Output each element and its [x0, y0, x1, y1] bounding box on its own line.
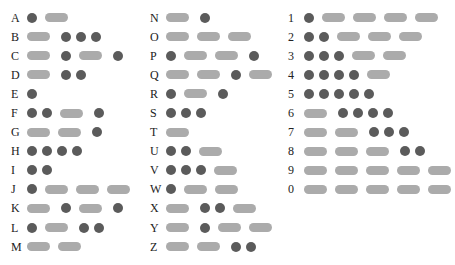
morse-row: 8 — [288, 142, 455, 161]
dash-icon — [304, 109, 327, 118]
morse-row: 0 — [288, 180, 455, 199]
character-label: K — [11, 202, 27, 214]
morse-row: J — [11, 180, 138, 199]
dot-icon — [166, 184, 176, 194]
dot-icon — [200, 223, 210, 233]
character-label: P — [150, 50, 166, 62]
dash-icon — [58, 128, 81, 137]
dash-icon — [337, 32, 360, 41]
morse-row: N — [150, 8, 280, 27]
morse-row: H — [11, 142, 138, 161]
dash-icon — [184, 185, 207, 194]
dot-icon — [181, 146, 191, 156]
dot-icon — [113, 203, 123, 213]
dash-icon — [335, 147, 358, 156]
dot-icon — [215, 203, 225, 213]
dot-icon — [319, 51, 329, 61]
dash-icon — [76, 185, 99, 194]
dot-icon — [369, 127, 379, 137]
morse-symbols — [27, 51, 128, 61]
dot-icon — [92, 127, 102, 137]
dash-icon — [368, 32, 391, 41]
morse-symbols — [304, 70, 398, 80]
morse-symbols — [304, 185, 455, 194]
morse-symbols — [27, 223, 109, 233]
dash-icon — [27, 128, 50, 137]
dash-icon — [366, 147, 389, 156]
dot-icon — [384, 127, 394, 137]
morse-row: S — [150, 103, 280, 122]
dash-icon — [60, 109, 83, 118]
dash-icon — [233, 204, 256, 213]
dash-icon — [166, 242, 189, 251]
dash-icon — [199, 147, 222, 156]
morse-row: B — [11, 27, 138, 46]
morse-row: T — [150, 123, 280, 142]
dot-icon — [415, 146, 425, 156]
morse-symbols — [304, 51, 414, 61]
morse-row: 3 — [288, 46, 455, 65]
dot-icon — [338, 108, 348, 118]
dash-icon — [383, 51, 406, 60]
dash-icon — [228, 32, 251, 41]
dot-icon — [113, 51, 123, 61]
character-label: 5 — [288, 88, 304, 100]
morse-symbols — [27, 146, 87, 156]
morse-row: U — [150, 142, 280, 161]
dash-icon — [415, 13, 438, 22]
character-label: B — [11, 31, 27, 43]
dash-icon — [218, 223, 241, 232]
morse-row: 6 — [288, 103, 455, 122]
morse-symbols — [166, 32, 259, 41]
character-label: H — [11, 145, 27, 157]
dot-icon — [218, 89, 228, 99]
morse-symbols — [27, 108, 109, 118]
morse-row: C — [11, 46, 138, 65]
dash-icon — [335, 128, 358, 137]
dash-icon — [397, 185, 420, 194]
dash-icon — [249, 70, 272, 79]
morse-symbols — [166, 203, 264, 213]
dot-icon — [353, 108, 363, 118]
dash-icon — [27, 32, 50, 41]
morse-symbols — [27, 13, 76, 23]
dot-icon — [181, 108, 191, 118]
dot-icon — [399, 127, 409, 137]
dot-icon — [79, 223, 89, 233]
morse-row: Y — [150, 218, 280, 237]
morse-symbols — [166, 146, 230, 156]
dash-icon — [399, 32, 422, 41]
dot-icon — [76, 32, 86, 42]
morse-row: I — [11, 161, 138, 180]
morse-row: F — [11, 103, 138, 122]
character-label: S — [150, 107, 166, 119]
dash-icon — [397, 166, 420, 175]
dot-icon — [42, 146, 52, 156]
dash-icon — [166, 128, 189, 137]
dot-icon — [319, 70, 329, 80]
morse-row: W — [150, 180, 280, 199]
dash-icon — [322, 13, 345, 22]
character-label: I — [11, 164, 27, 176]
morse-symbols — [166, 242, 261, 252]
dot-icon — [181, 165, 191, 175]
character-label: R — [150, 88, 166, 100]
character-label: 4 — [288, 69, 304, 81]
morse-row: 4 — [288, 65, 455, 84]
dot-icon — [196, 108, 206, 118]
dot-icon — [304, 89, 314, 99]
dot-icon — [166, 146, 176, 156]
dash-icon — [79, 51, 102, 60]
dash-icon — [166, 223, 189, 232]
dot-icon — [27, 223, 37, 233]
character-label: X — [150, 202, 166, 214]
dot-icon — [42, 108, 52, 118]
dash-icon — [45, 185, 68, 194]
morse-symbols — [166, 51, 264, 61]
dash-icon — [166, 70, 189, 79]
dot-icon — [94, 223, 104, 233]
morse-symbols — [166, 13, 215, 23]
dot-icon — [349, 89, 359, 99]
dash-icon — [367, 70, 390, 79]
morse-row: 5 — [288, 84, 455, 103]
